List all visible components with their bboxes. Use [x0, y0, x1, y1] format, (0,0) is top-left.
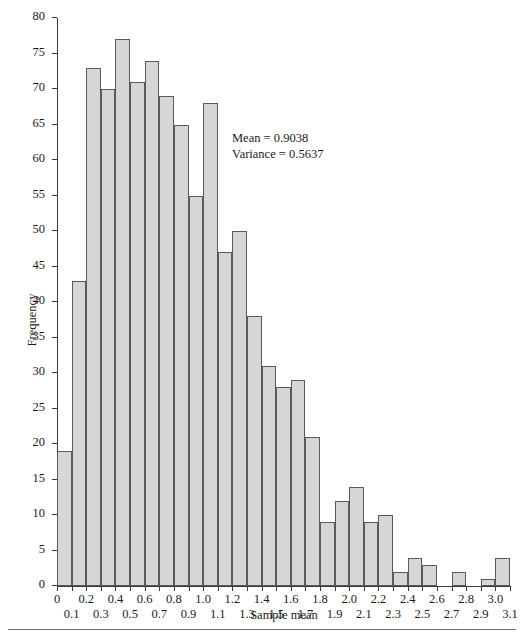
y-axis-tick: 50 [52, 230, 57, 231]
y-axis-tick-label: 45 [33, 258, 46, 273]
y-axis-tick-label: 10 [33, 506, 46, 521]
x-axis-tick [262, 586, 263, 591]
histogram-bar [203, 103, 218, 586]
statistics-annotation: Mean = 0.9038 Variance = 0.5637 [232, 130, 323, 162]
histogram-bar [189, 196, 204, 587]
y-axis-tick: 30 [52, 372, 57, 373]
x-axis-tick-label: 1.0 [195, 592, 211, 606]
x-axis-tick [510, 586, 511, 591]
x-axis-tick [130, 586, 131, 591]
histogram-bar [452, 572, 467, 586]
histogram-bar [320, 522, 335, 586]
y-axis-tick-label: 35 [33, 329, 46, 344]
x-axis-line [57, 586, 511, 587]
y-axis-tick-label: 15 [33, 471, 46, 486]
y-axis-tick-label: 5 [39, 542, 45, 557]
x-axis-tick [349, 586, 350, 591]
x-axis-tick [232, 586, 233, 591]
x-axis-tick-label: 3.0 [488, 592, 504, 606]
y-axis-tick: 70 [52, 88, 57, 89]
y-axis-tick-label: 50 [33, 222, 46, 237]
x-axis-tick [115, 586, 116, 591]
y-axis-tick: 65 [52, 124, 57, 125]
x-axis-tick-label: 1.8 [312, 592, 328, 606]
x-axis-tick [247, 586, 248, 591]
x-axis-tick [378, 586, 379, 591]
y-axis-tick-label: 40 [33, 293, 46, 308]
histogram-bar [262, 366, 277, 586]
y-axis-tick: 40 [52, 301, 57, 302]
histogram-bar [174, 125, 189, 587]
y-axis-tick-label: 25 [33, 400, 46, 415]
x-axis-tick [305, 586, 306, 591]
y-axis-tick: 45 [52, 266, 57, 267]
x-axis-tick-label: 2.2 [371, 592, 387, 606]
x-axis-tick-label: 1.6 [283, 592, 299, 606]
x-axis-tick [452, 586, 453, 591]
x-axis-tick-label: 0.4 [108, 592, 124, 606]
histogram-bar [247, 316, 262, 586]
histogram-bar [115, 39, 130, 586]
x-axis-tick-label: 1.2 [225, 592, 241, 606]
bottom-divider [8, 629, 516, 630]
histogram-bar [408, 558, 423, 586]
histogram-bar [349, 487, 364, 586]
histogram-bar [291, 380, 306, 586]
x-axis-tick-label: 2.0 [341, 592, 357, 606]
y-axis-tick: 75 [52, 53, 57, 54]
histogram-bar [305, 437, 320, 586]
x-axis-tick [437, 586, 438, 591]
histogram-bar [393, 572, 408, 586]
x-axis-tick [174, 586, 175, 591]
y-axis-tick-label: 55 [33, 187, 46, 202]
histogram-bar [86, 68, 101, 586]
y-axis-tick-label: 65 [33, 116, 46, 131]
histogram-bar [335, 501, 350, 586]
x-axis-tick [291, 586, 292, 591]
x-axis-tick [57, 586, 58, 591]
x-axis-tick [481, 586, 482, 591]
x-axis-tick [276, 586, 277, 591]
x-axis-tick [320, 586, 321, 591]
x-axis-tick [159, 586, 160, 591]
x-axis-tick-label: 0 [54, 592, 60, 606]
mean-annotation: Mean = 0.9038 [232, 130, 323, 146]
histogram-bar [145, 61, 160, 586]
y-axis-tick-label: 70 [33, 80, 46, 95]
x-axis-tick [145, 586, 146, 591]
x-axis-tick [101, 586, 102, 591]
y-axis-tick: 25 [52, 408, 57, 409]
histogram-bar [481, 579, 496, 586]
y-axis-tick: 20 [52, 443, 57, 444]
variance-annotation: Variance = 0.5637 [232, 146, 323, 162]
x-axis-tick [364, 586, 365, 591]
x-axis-tick-label: 0.6 [137, 592, 153, 606]
x-axis-tick-label: 2.8 [458, 592, 474, 606]
histogram-bar [101, 89, 116, 586]
x-axis-tick [335, 586, 336, 591]
x-axis-tick [189, 586, 190, 591]
x-axis-tick [466, 586, 467, 591]
x-axis-title: Sample mean [57, 608, 511, 623]
histogram-bar [218, 252, 233, 586]
y-axis-tick: 35 [52, 337, 57, 338]
y-axis-tick-label: 30 [33, 364, 46, 379]
x-axis-tick [422, 586, 423, 591]
x-axis-tick-label: 1.4 [254, 592, 270, 606]
histogram-bar [276, 387, 291, 586]
x-axis-tick-label: 2.4 [400, 592, 416, 606]
y-axis-tick-label: 20 [33, 435, 46, 450]
histogram-bar [378, 515, 393, 586]
x-axis-tick-label: 0.2 [78, 592, 94, 606]
histogram-bar [232, 231, 247, 586]
y-axis-tick-label: 75 [33, 45, 46, 60]
x-axis-tick [86, 586, 87, 591]
y-axis-tick: 55 [52, 195, 57, 196]
x-axis-tick-label: 2.6 [429, 592, 445, 606]
x-axis-tick [72, 586, 73, 591]
y-axis-tick: 80 [52, 17, 57, 18]
x-axis-tick [203, 586, 204, 591]
y-axis-tick-label: 80 [33, 9, 46, 24]
x-axis-tick [495, 586, 496, 591]
histogram-bar [72, 281, 87, 586]
